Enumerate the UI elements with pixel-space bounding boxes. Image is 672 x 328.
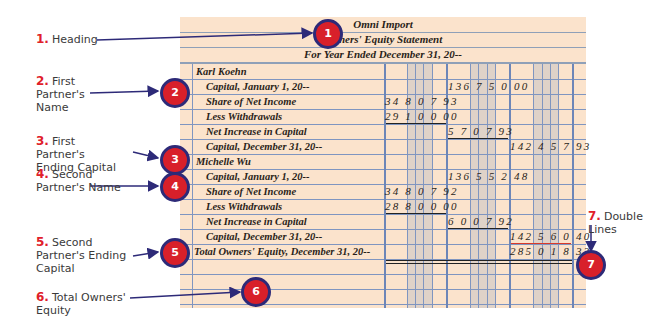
- callout-number: 7.: [588, 209, 601, 223]
- callout-number: 6.: [36, 290, 49, 304]
- callout-number: 5.: [36, 235, 49, 249]
- callout-number: 4.: [36, 167, 49, 181]
- callout-total-owners-equity: 6.Total Owners' Equity: [36, 291, 126, 317]
- callout-double-lines: 7.Double Lines: [588, 210, 648, 236]
- callout-number: 1.: [36, 32, 49, 46]
- badge-2: 2: [160, 78, 190, 108]
- callout-number: 3.: [36, 134, 49, 148]
- badge-4: 4: [160, 172, 190, 202]
- callout-number: 2.: [36, 74, 49, 88]
- callout-second-partner-name: 4.Second Partner's Name: [36, 168, 136, 194]
- callout-heading: 1.Heading: [36, 33, 98, 46]
- badge-1: 1: [313, 19, 343, 49]
- callout-first-partner-name: 2.First Partner's Name: [36, 75, 106, 114]
- badge-5: 5: [160, 238, 190, 268]
- callout-second-partner-ending-capital: 5.Second Partner's Ending Capital: [36, 236, 136, 275]
- badge-6: 6: [241, 277, 271, 307]
- badge-7: 7: [576, 250, 606, 280]
- badge-3: 3: [160, 145, 190, 175]
